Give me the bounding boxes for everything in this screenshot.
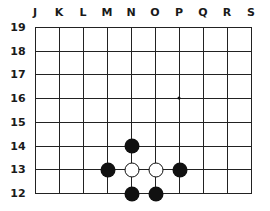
grid-row-line — [35, 51, 252, 52]
column-label: P — [175, 7, 183, 18]
grid-column-line — [35, 27, 36, 194]
go-board-diagram: JKLMNOPQRS1918171615141312 — [0, 0, 270, 211]
row-label: 19 — [10, 22, 25, 33]
grid-column-line — [227, 27, 228, 194]
black-stone — [124, 139, 139, 154]
grid-row-line — [35, 169, 252, 170]
grid-row-line — [35, 193, 252, 194]
black-stone — [124, 186, 139, 201]
column-label: L — [79, 7, 86, 18]
row-label: 13 — [10, 164, 25, 175]
star-point — [178, 97, 181, 100]
grid-row-line — [35, 27, 252, 28]
grid-row-line — [35, 146, 252, 147]
black-stone — [172, 162, 187, 177]
row-label: 15 — [10, 116, 25, 127]
column-label: S — [247, 7, 255, 18]
grid-row-line — [35, 122, 252, 123]
black-stone — [100, 162, 115, 177]
row-label: 14 — [10, 140, 25, 151]
row-label: 16 — [10, 93, 25, 104]
grid-column-line — [83, 27, 84, 194]
row-label: 17 — [10, 69, 25, 80]
column-label: K — [55, 7, 64, 18]
column-label: N — [126, 7, 135, 18]
column-label: M — [102, 7, 113, 18]
grid-row-line — [35, 98, 252, 99]
row-label: 12 — [10, 188, 25, 199]
column-label: O — [150, 7, 159, 18]
column-label: Q — [198, 7, 207, 18]
black-stone — [148, 186, 163, 201]
white-stone — [124, 162, 139, 177]
white-stone — [148, 162, 163, 177]
grid-row-line — [35, 74, 252, 75]
column-label: J — [33, 7, 37, 18]
column-label: R — [223, 7, 231, 18]
grid-column-line — [251, 27, 252, 194]
grid-column-line — [203, 27, 204, 194]
grid-column-line — [59, 27, 60, 194]
row-label: 18 — [10, 45, 25, 56]
